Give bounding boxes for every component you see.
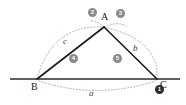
arc-from-B-extension	[104, 24, 126, 27]
step-marker-5: 5	[113, 54, 122, 63]
segment-AB	[37, 27, 104, 79]
step-marker-1: 1	[155, 85, 164, 94]
step-marker-2: 2	[88, 8, 97, 17]
step-marker-4: 4	[69, 54, 78, 63]
geometry-figure: A B C a b c 1 2 3 4 5	[0, 0, 186, 105]
side-label-c: c	[63, 37, 67, 46]
side-label-b: b	[133, 44, 138, 53]
arc-base	[39, 81, 156, 91]
step-marker-3: 3	[116, 9, 125, 18]
vertex-label-A: A	[101, 12, 108, 22]
side-label-a: a	[89, 89, 94, 98]
vertex-label-B: B	[31, 82, 38, 92]
segment-AC	[104, 27, 157, 79]
